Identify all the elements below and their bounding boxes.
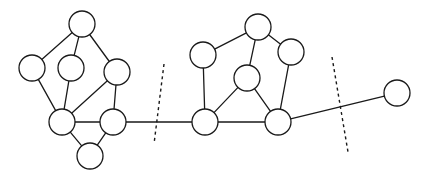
graph-node[interactable] [192, 109, 218, 135]
graph-node[interactable] [190, 42, 216, 68]
graph-edge [90, 35, 110, 62]
graph-edge [38, 79, 55, 110]
graph-node[interactable] [100, 109, 126, 135]
graph-node[interactable] [77, 143, 103, 169]
graph-edge [291, 96, 385, 119]
graph-edge [215, 33, 247, 49]
graph-edge [280, 65, 288, 109]
diagram-canvas [0, 0, 430, 180]
graph-node[interactable] [58, 55, 84, 81]
graph-edge [214, 87, 238, 112]
graph-edge [250, 40, 256, 66]
graph-node[interactable] [384, 80, 410, 106]
graph-edge [70, 132, 81, 146]
graph-edge [203, 68, 204, 109]
graph-node[interactable] [104, 59, 130, 85]
node-layer [19, 11, 410, 169]
graph-edge [72, 81, 108, 114]
graph-edge [268, 35, 280, 44]
graph-edge [254, 89, 270, 112]
graph-node[interactable] [245, 14, 271, 40]
graph-node[interactable] [49, 109, 75, 135]
graph-node[interactable] [278, 39, 304, 65]
graph-svg [0, 0, 430, 180]
graph-edge [64, 81, 69, 109]
graph-edge [74, 37, 79, 56]
graph-edge [114, 85, 116, 109]
graph-node[interactable] [19, 55, 45, 81]
dashed-cut-line [154, 64, 164, 144]
graph-node[interactable] [265, 109, 291, 135]
graph-node[interactable] [234, 65, 260, 91]
graph-edge [97, 133, 105, 145]
graph-node[interactable] [69, 11, 95, 37]
dashed-cut-line [332, 57, 348, 152]
